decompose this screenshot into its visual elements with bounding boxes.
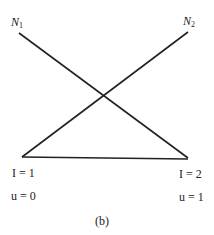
n1-label: N1 (11, 16, 23, 32)
figure-caption: (b) (95, 215, 109, 227)
right-node-u-label: u = 1 (179, 191, 204, 203)
right-node-index-label: I = 2 (179, 168, 202, 180)
left-node-index-label: I = 1 (12, 167, 35, 179)
element-baseline (22, 157, 188, 159)
n2-label: N2 (183, 15, 195, 31)
n2-line (22, 32, 188, 157)
left-node-u-label: u = 0 (11, 190, 36, 202)
